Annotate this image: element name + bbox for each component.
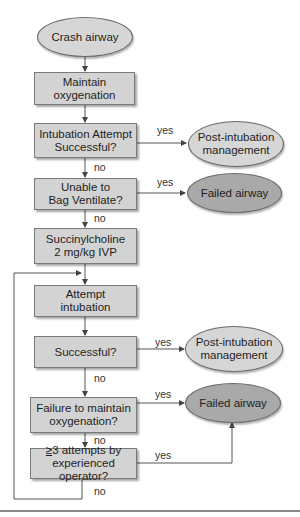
succ-line-1: Succinylcholine <box>46 233 125 246</box>
unable-to-bag-decision: Unable to Bag Ventilate? <box>34 178 137 210</box>
yes-label-3: yes <box>155 336 171 348</box>
successful-decision: Successful? <box>34 336 137 368</box>
post-1-line-2: management <box>198 144 275 157</box>
no-label-2: no <box>94 212 106 224</box>
three-attempts-decision: ≥3 attempts by experienced operator? <box>30 448 137 479</box>
intub-line-2: Successful? <box>39 141 132 154</box>
successful-label: Successful? <box>54 346 116 359</box>
yes-label-1: yes <box>157 124 173 136</box>
maintain-line-1: Maintain <box>53 76 115 89</box>
attempt-line-1: Attempt <box>61 288 111 301</box>
yes-label-2: yes <box>157 176 173 188</box>
failed-airway-1-label: Failed airway <box>201 187 269 200</box>
fail-ox-line-2: oxygenation? <box>36 415 131 428</box>
post-intubation-node-2: Post-intubation management <box>185 326 283 372</box>
failure-to-maintain-oxygenation-decision: Failure to maintain oxygenation? <box>30 397 137 433</box>
succinylcholine-box: Succinylcholine 2 mg/kg IVP <box>34 228 137 264</box>
attempt-intubation-box: Attempt intubation <box>34 285 137 317</box>
fail-ox-line-1: Failure to maintain <box>36 402 131 415</box>
no-label-5: no <box>94 485 106 497</box>
maintain-line-2: oxygenation <box>53 89 115 102</box>
no-label-1: no <box>94 161 106 173</box>
crash-airway-label: Crash airway <box>51 31 118 44</box>
post-intubation-node-1: Post-intubation management <box>188 121 284 167</box>
bag-line-2: Bag Ventilate? <box>48 194 122 207</box>
post-1-line-1: Post-intubation <box>198 131 275 144</box>
post-2-line-2: management <box>196 349 273 362</box>
failed-airway-node-1: Failed airway <box>187 173 282 213</box>
bag-line-1: Unable to <box>48 181 122 194</box>
post-2-line-1: Post-intubation <box>196 336 273 349</box>
bottom-divider <box>0 510 300 512</box>
yes-label-5: yes <box>155 449 171 461</box>
attempt-line-2: intubation <box>61 301 111 314</box>
yes-label-4: yes <box>155 388 171 400</box>
failed-airway-2-label: Failed airway <box>199 397 267 410</box>
three-line-1: 3 attempts by <box>52 444 121 456</box>
succ-line-2: 2 mg/kg IVP <box>46 246 125 259</box>
three-line-2: experienced operator? <box>31 457 136 483</box>
start-node-crash-airway: Crash airway <box>37 17 133 57</box>
failed-airway-node-2: Failed airway <box>185 383 281 423</box>
intubation-attempt-decision: Intubation Attempt Successful? <box>34 123 137 158</box>
no-label-3: no <box>94 372 106 384</box>
maintain-oxygenation-box: Maintain oxygenation <box>34 72 135 105</box>
intub-line-1: Intubation Attempt <box>39 128 132 141</box>
